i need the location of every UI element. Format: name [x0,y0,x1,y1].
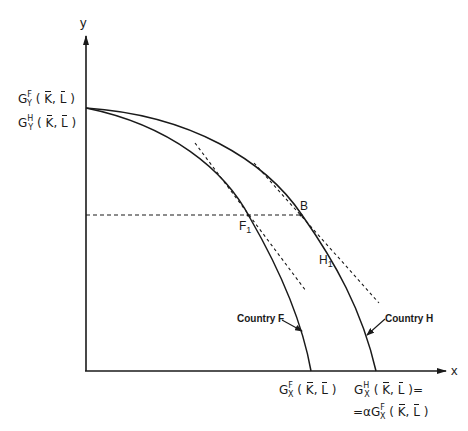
y-axis-label: y [80,16,87,30]
x-intercept-label-h-alpha: =αGFX ( K, L ) [353,405,428,421]
x-intercept-label-f: GFX ( K, L ) [279,383,336,399]
point-b-marker [300,214,303,217]
ppf-diagram [0,0,468,431]
country-h-pointer [367,319,385,335]
country-h-label: Country H [385,312,433,326]
point-b-label: B [300,199,308,213]
y-intercept-label-f: GFY ( K, L ) [18,92,75,108]
country-h-frontier [86,108,376,371]
country-f-frontier [86,108,311,371]
tangent-line-h [254,163,379,303]
point-f1-label: F1 [239,219,251,234]
point-f1-marker [247,214,250,217]
tangent-line-f [195,143,306,291]
country-f-label: Country F [237,312,284,326]
x-axis-label: x [451,364,458,378]
x-intercept-label-h: GHX ( K, L )= [354,383,423,399]
y-intercept-label-h: GHY ( K, L ) [18,116,76,132]
point-h1-label: H1 [319,253,333,268]
